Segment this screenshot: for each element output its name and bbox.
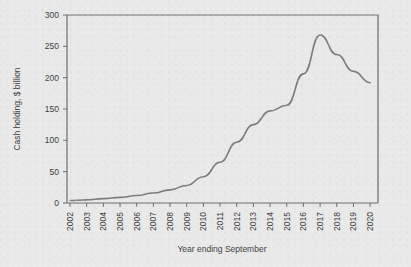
line-chart: 050100150200250300 200220032004200520062… [0,0,411,267]
plot-frame [67,15,378,203]
y-axis-title: Cash holding, $ billion [12,67,22,150]
x-tick-label: 2019 [348,212,358,231]
y-tick-label: 200 [45,73,59,83]
x-tick-label: 2015 [282,212,292,231]
x-tick-label: 2010 [198,212,208,231]
x-tick-label: 2003 [82,212,92,231]
x-tick-label: 2004 [98,212,108,231]
chart-figure: 050100150200250300 200220032004200520062… [0,0,411,267]
x-tick-label: 2008 [165,212,175,231]
x-axis-tick-labels: 2002200320042005200620072008200920102011… [65,212,375,231]
x-tick-label: 2016 [298,212,308,231]
y-tick-label: 250 [45,41,59,51]
cash-holding-line [70,35,370,200]
x-tick-label: 2005 [115,212,125,231]
x-tick-label: 2012 [232,212,242,231]
x-tick-label: 2006 [132,212,142,231]
x-tick-label: 2011 [215,212,225,231]
y-tick-label: 0 [54,198,59,208]
y-tick-label: 150 [45,104,59,114]
x-tick-label: 2009 [182,212,192,231]
x-tick-label: 2018 [332,212,342,231]
x-tick-label: 2017 [315,212,325,231]
x-tick-label: 2020 [365,212,375,231]
x-tick-label: 2013 [248,212,258,231]
x-axis-title: Year ending September [177,244,266,254]
y-tick-label: 300 [45,10,59,20]
y-tick-label: 50 [50,167,60,177]
x-tick-label: 2014 [265,212,275,231]
y-axis-tick-labels: 050100150200250300 [45,10,59,208]
y-tick-label: 100 [45,135,59,145]
x-tick-label: 2007 [148,212,158,231]
x-tick-label: 2002 [65,212,75,231]
